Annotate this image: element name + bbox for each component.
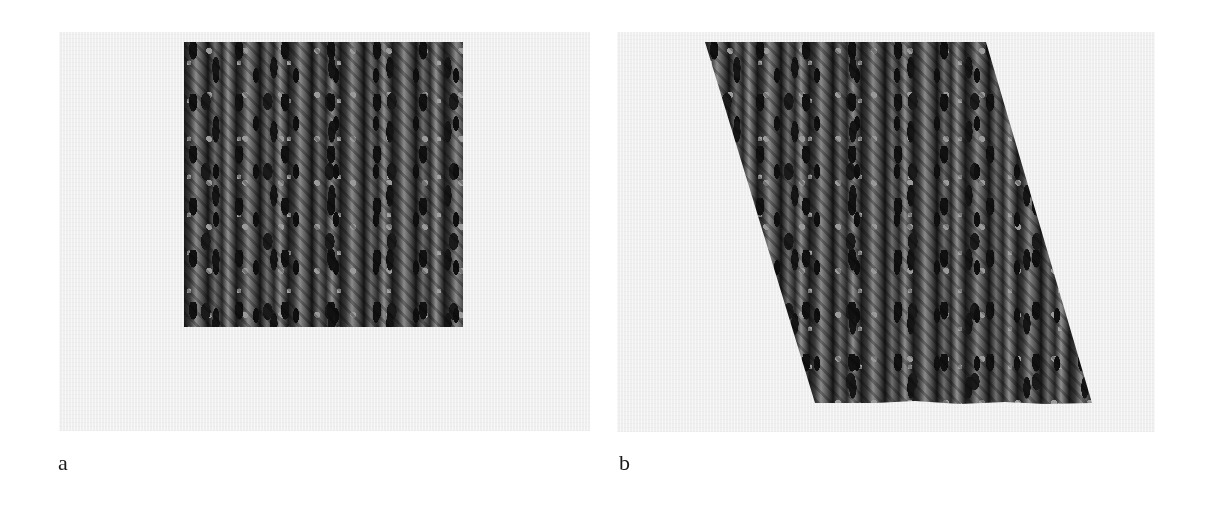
panel-a-texture-square xyxy=(184,42,463,327)
panel-a-label: a xyxy=(58,452,68,474)
panel-b-label: b xyxy=(619,452,630,474)
